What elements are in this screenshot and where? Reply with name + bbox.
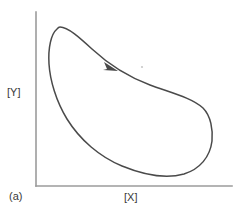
limit-cycle-curve [49, 27, 212, 176]
phase-plane-figure: [Y] [X] (a) [0, 0, 235, 218]
scan-speck [141, 66, 143, 68]
figure-canvas [0, 0, 235, 218]
panel-label: (a) [9, 190, 22, 202]
x-axis-label: [X] [124, 191, 137, 203]
y-axis-label: [Y] [7, 86, 20, 98]
